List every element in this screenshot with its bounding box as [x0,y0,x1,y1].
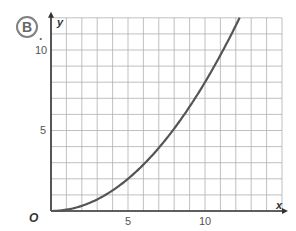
chart-canvas [0,0,296,231]
figure-badge-suffix: . [39,29,42,43]
origin-label: O [29,211,38,225]
x-tick-label-10: 10 [199,215,211,227]
figure-badge: B [16,16,38,38]
y-axis-label: y [57,16,63,28]
figure-badge-label: B [22,19,32,35]
x-tick-label-5: 5 [125,215,131,227]
axes [48,12,288,214]
x-axis-label: x [276,199,282,211]
y-tick-label-5: 5 [40,124,46,136]
y-tick-label-10: 10 [35,44,47,56]
grid-lines [51,18,282,211]
